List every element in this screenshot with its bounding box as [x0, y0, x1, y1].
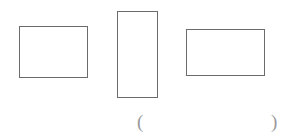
worksheet-canvas: ( ) — [0, 0, 286, 137]
rectangle-right — [186, 29, 265, 76]
answer-row: ( ) — [0, 104, 286, 137]
rectangle-left — [19, 26, 88, 78]
rectangle-middle — [117, 11, 158, 98]
close-paren-glyph: ) — [271, 112, 277, 131]
open-paren-glyph: ( — [137, 112, 143, 131]
shapes-group — [0, 0, 286, 104]
